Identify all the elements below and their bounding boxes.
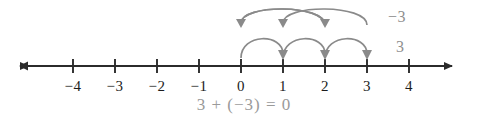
jump-label-lower: 3 xyxy=(396,38,405,56)
left-arrowhead-icon xyxy=(19,62,28,71)
arrowhead-left-down-icon xyxy=(278,19,288,28)
tick-label-0: 0 xyxy=(221,78,261,95)
upper-jump-arcs xyxy=(241,9,367,25)
arrowhead-right-down-icon xyxy=(320,50,330,60)
jump-label-upper: −3 xyxy=(388,8,406,26)
tick-label-neg2: −2 xyxy=(137,78,177,95)
jump-arc-lower xyxy=(325,39,367,58)
tick-label-neg1: −1 xyxy=(179,78,219,95)
equation-caption: 3 + (−3) = 0 xyxy=(0,95,488,115)
jump-arc-lower xyxy=(283,39,325,58)
lower-jump-arrowheads xyxy=(278,50,372,60)
upper-jump-arrowheads xyxy=(236,19,330,28)
tick-label-2: 2 xyxy=(305,78,345,95)
tick-label-3: 3 xyxy=(347,78,387,95)
arrowhead-right-down-icon xyxy=(278,50,288,60)
number-line-figure: −4 −3 −2 −1 0 1 2 3 4 −3 3 3 + (−3) = 0 xyxy=(0,0,488,126)
axis-line-group xyxy=(19,62,452,71)
lower-jump-arcs xyxy=(241,39,367,58)
tick-label-neg4: −4 xyxy=(53,78,93,95)
arrowhead-left-down-icon xyxy=(320,19,330,28)
arrowhead-left-down-icon xyxy=(236,19,246,28)
arrowhead-right-down-icon xyxy=(362,50,372,60)
tick-label-neg3: −3 xyxy=(95,78,135,95)
tick-label-4: 4 xyxy=(389,78,429,95)
tick-label-1: 1 xyxy=(263,78,303,95)
jump-arc-lower xyxy=(241,39,283,58)
